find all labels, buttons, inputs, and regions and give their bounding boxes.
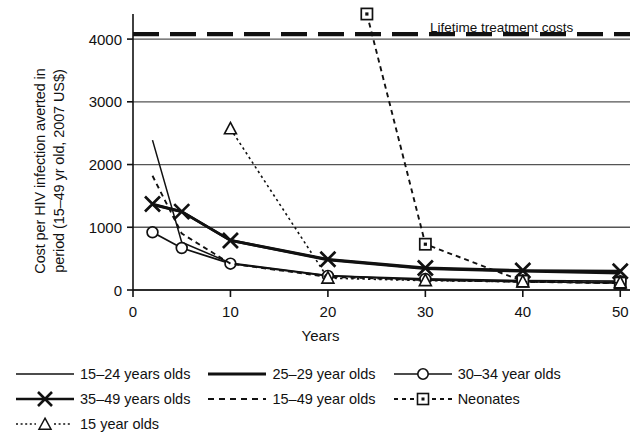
legend-row: 15 year olds (14, 411, 634, 436)
marker-circle (176, 243, 187, 254)
legend-swatch-line-cross (14, 389, 76, 409)
legend-label: 30–34 year olds (454, 366, 561, 382)
legend-label: 25–29 year olds (268, 366, 375, 382)
legend-item: 15–24 years olds (14, 364, 190, 384)
chart-legend: 15–24 years olds 25–29 year olds 30–34 y… (14, 361, 634, 436)
x-tick-label: 10 (222, 303, 239, 320)
y-tick-label: 3000 (89, 93, 122, 110)
legend-item: Neonates (392, 389, 520, 409)
series-line (231, 129, 621, 283)
marker-circle (147, 227, 158, 238)
series-line (367, 14, 620, 283)
series-line (153, 176, 621, 283)
legend-swatch-thin-line (14, 364, 76, 384)
x-tick-label: 30 (417, 303, 434, 320)
figure-hiv-cost-chart: Cost per HIV infection averted in period… (0, 0, 641, 442)
legend-swatch-thick-line (206, 364, 268, 384)
legend-item: 25–29 year olds (206, 364, 375, 384)
legend-item: 30–34 year olds (392, 364, 561, 384)
legend-label: 15–49 year olds (268, 391, 375, 407)
legend-row: 35–49 years olds 15–49 year olds Neonate… (14, 386, 634, 411)
x-tick-label: 50 (612, 303, 629, 320)
series-line (153, 232, 621, 281)
plot-area: 0100020003000400001020304050 (0, 0, 641, 345)
legend-item: 15 year olds (14, 414, 159, 434)
x-tick-label: 0 (129, 303, 137, 320)
legend-label: 15–24 years olds (76, 366, 190, 382)
legend-swatch-line-circle (392, 364, 454, 384)
x-tick-label: 40 (514, 303, 531, 320)
legend-item: 35–49 years olds (14, 389, 190, 409)
series-line (153, 205, 621, 273)
legend-label: 15 year olds (76, 416, 159, 432)
legend-label: Neonates (454, 391, 520, 407)
y-tick-label: 2000 (89, 156, 122, 173)
x-tick-label: 20 (320, 303, 337, 320)
y-tick-label: 0 (114, 282, 122, 299)
legend-swatch-dashed-square (392, 389, 454, 409)
series-group (145, 8, 628, 288)
legend-swatch-dotted-triangle (14, 414, 76, 434)
legend-item: 15–49 year olds (206, 389, 375, 409)
y-tick-label: 4000 (89, 31, 122, 48)
marker-square-dot (424, 243, 427, 246)
legend-label: 35–49 years olds (76, 391, 190, 407)
y-tick-label: 1000 (89, 219, 122, 236)
marker-square-dot (365, 12, 368, 15)
marker-triangle (224, 122, 236, 133)
legend-swatch-dashed-line (206, 389, 268, 409)
legend-row: 15–24 years olds 25–29 year olds 30–34 y… (14, 361, 634, 386)
